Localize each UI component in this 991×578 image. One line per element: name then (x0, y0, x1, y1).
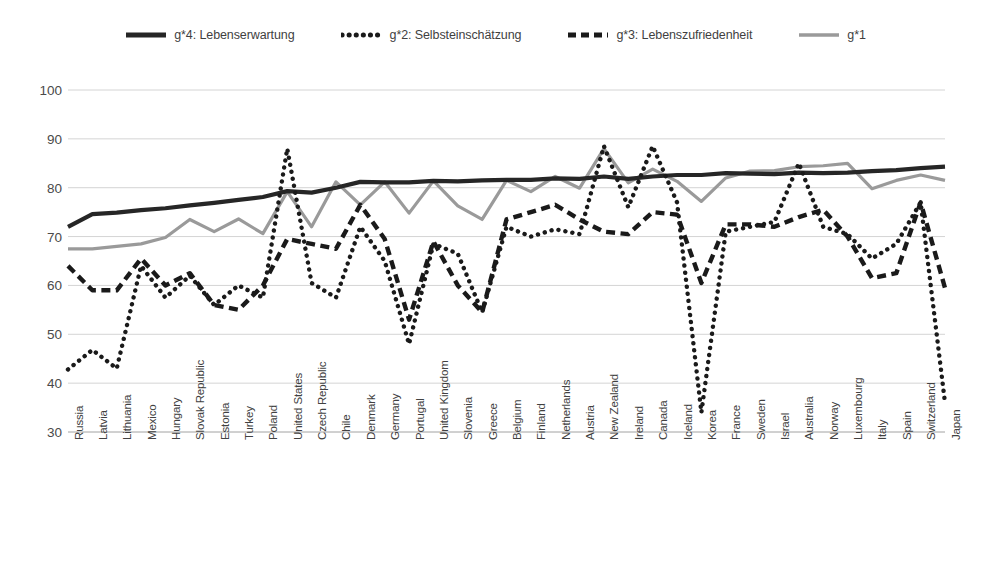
plot-svg (0, 0, 991, 578)
series-line (68, 146, 945, 412)
series-line (68, 202, 945, 319)
y-tick-label: 30 (26, 425, 62, 440)
y-tick-label: 40 (26, 376, 62, 391)
y-tick-label: 90 (26, 131, 62, 146)
y-tick-label: 80 (26, 180, 62, 195)
y-tick-label: 60 (26, 278, 62, 293)
y-tick-label: 100 (26, 83, 62, 98)
y-tick-label: 70 (26, 229, 62, 244)
y-tick-label: 50 (26, 327, 62, 342)
plot-area (0, 0, 991, 578)
line-chart: g*4: Lebenserwartungg*2: Selbsteinschätz… (0, 0, 991, 578)
y-axis: 30405060708090100 (18, 0, 62, 578)
